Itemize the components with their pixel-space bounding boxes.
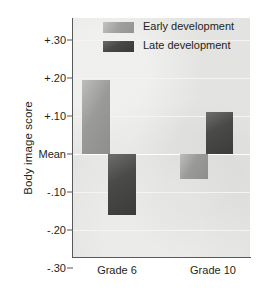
y-tick-label-2: +.10: [22, 110, 66, 122]
x-tick-label-grade-6: Grade 6: [97, 264, 137, 276]
legend-swatch-late-development: [103, 41, 134, 52]
gridline-neg-0-20: [73, 230, 250, 231]
y-tick-mark-6: [67, 268, 73, 269]
legend-entry-late-development: Late development: [103, 39, 253, 56]
y-tick-label-1: +.20: [22, 72, 66, 84]
legend-swatch-early-development: [103, 22, 134, 33]
body-image-score-bar-chart: Body image score +.30 +.20 +.10 Mean -.1…: [0, 0, 258, 292]
bar-grade6-late-development: [108, 154, 136, 215]
gridline-mean: [73, 154, 250, 155]
bar-grade10-early-development: [180, 154, 208, 179]
legend-entry-early-development: Early development: [103, 20, 253, 37]
y-tick-label-0: +.30: [22, 34, 66, 46]
gridline-0-20: [73, 78, 250, 79]
y-tick-label-6: -.30: [22, 262, 66, 274]
legend-label-late-development: Late development: [143, 39, 230, 51]
chart-legend: Early development Late development: [103, 20, 253, 58]
legend-label-early-development: Early development: [143, 20, 234, 32]
x-tick-label-grade-10: Grade 10: [190, 264, 236, 276]
y-axis-line: [72, 18, 73, 258]
y-tick-label-5: -.20: [22, 224, 66, 236]
y-tick-label-mean: Mean: [22, 148, 66, 160]
bar-grade6-early-development: [82, 80, 110, 154]
bar-grade10-late-development: [206, 112, 233, 154]
y-tick-label-4: -.10: [22, 186, 66, 198]
x-axis-line: [72, 257, 251, 258]
gridline-neg-0-10: [73, 192, 250, 193]
y-axis-tick-labels: +.30 +.20 +.10 Mean -.10 -.20 -.30: [22, 0, 66, 292]
